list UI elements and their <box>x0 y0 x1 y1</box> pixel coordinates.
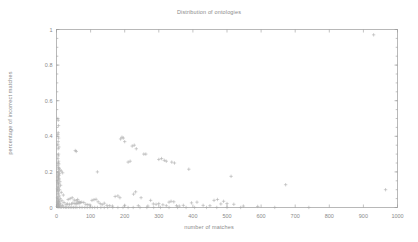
y-axis-ticks: 00.20.40.60.81 <box>45 27 398 211</box>
svg-text:0.6: 0.6 <box>45 98 53 104</box>
chart-figure: Distribution of ontologies percentage of… <box>0 0 418 242</box>
svg-text:300: 300 <box>154 213 163 219</box>
scatter-plot-area: 01002003004005006007008009001000 00.20.4… <box>0 0 418 242</box>
svg-text:700: 700 <box>291 213 300 219</box>
svg-text:400: 400 <box>188 213 197 219</box>
svg-text:900: 900 <box>359 213 368 219</box>
svg-text:1000: 1000 <box>391 213 403 219</box>
plot-frame <box>57 30 398 208</box>
data-point-group <box>55 33 387 209</box>
svg-text:600: 600 <box>257 213 266 219</box>
svg-text:800: 800 <box>325 213 334 219</box>
x-axis-label: number of matches <box>0 224 418 230</box>
svg-text:0: 0 <box>49 205 52 211</box>
x-axis-ticks: 01002003004005006007008009001000 <box>55 30 404 219</box>
svg-text:0.2: 0.2 <box>45 169 53 175</box>
svg-text:200: 200 <box>120 213 129 219</box>
svg-text:0.4: 0.4 <box>45 133 53 139</box>
svg-text:0: 0 <box>55 213 58 219</box>
svg-text:500: 500 <box>222 213 231 219</box>
svg-text:1: 1 <box>49 27 52 33</box>
svg-text:0.8: 0.8 <box>45 62 53 68</box>
svg-text:100: 100 <box>86 213 95 219</box>
